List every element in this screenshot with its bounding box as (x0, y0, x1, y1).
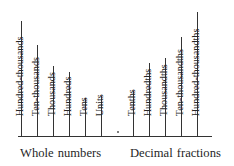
place-value-label: Hundreds (63, 77, 73, 117)
place-value-chart: Hundred-thousandsTen-thousandsThousandsH… (0, 0, 234, 166)
place-value-label: Hundred-thousands (15, 37, 25, 117)
place-value-label: Ten-thousands (31, 57, 41, 116)
place-value-label: Units (95, 94, 105, 116)
decimal-point-marker (117, 131, 119, 133)
place-value-label: Tens (79, 97, 89, 116)
place-value-label: Ten-thousandths (175, 49, 185, 116)
place-value-label: Hundredths (143, 69, 153, 117)
group-caption-decimal-fractions: Decimal fractions (130, 147, 221, 160)
place-value-label: Hundred-thousandths (191, 29, 201, 117)
place-value-label: Tenths (127, 89, 137, 116)
group-caption-whole-numbers: Whole numbers (20, 147, 101, 160)
place-value-label: Thousandths (159, 64, 169, 116)
place-value-baseline (18, 136, 212, 137)
place-value-label: Thousands (47, 72, 57, 116)
